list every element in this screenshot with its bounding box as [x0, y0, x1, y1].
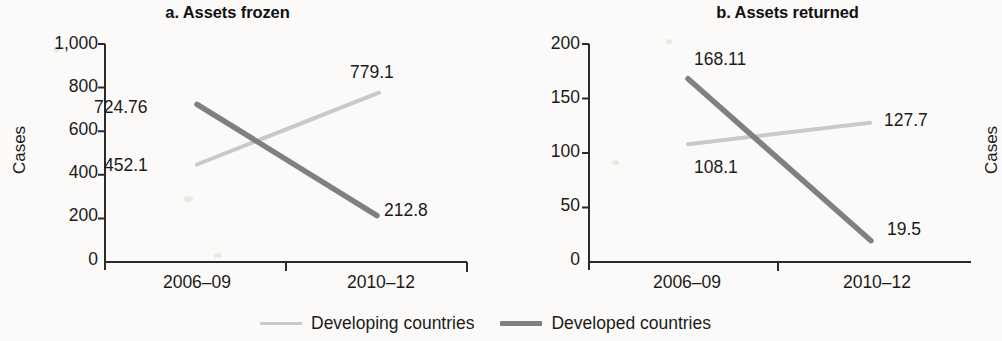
- panel-b-assets-returned: b. Assets returned Cases 200 150 100 50 …: [480, 0, 971, 300]
- panel-a-series-developed-countries: [197, 104, 377, 215]
- legend-entry-developing-countries[interactable]: Developing countries: [260, 313, 474, 334]
- panel-b-value-developing-end: 127.7: [884, 110, 928, 131]
- panel-b-ytick-150: 150: [502, 87, 580, 108]
- panel-b-xtick-2010-12: 2010–12: [812, 272, 942, 293]
- panel-a-ytick-400: 400: [10, 162, 98, 183]
- panel-b-value-developed-end: 19.5: [887, 219, 921, 240]
- panel-b-series-developing-countries: [688, 123, 870, 144]
- panel-b-value-developed-start: 168.11: [694, 49, 746, 70]
- panel-a-series-developing-countries: [197, 93, 379, 165]
- panel-a-ytick-200: 200: [10, 205, 98, 226]
- panel-a-y-ticks: [98, 44, 105, 218]
- panel-a-ytick-800: 800: [10, 76, 98, 97]
- panel-a-title: a. Assets frozen: [0, 3, 455, 22]
- panel-b-ytick-50: 50: [502, 195, 580, 216]
- panel-b-value-developing-start: 108.1: [694, 157, 738, 178]
- panel-b-ytick-0: 0: [502, 249, 580, 270]
- panel-a-ytick-1000: 1,000: [10, 33, 98, 54]
- legend-swatch-developing-countries-icon: [260, 322, 302, 325]
- panel-b-y-ticks: [582, 44, 589, 208]
- panel-a-xtick-2010-12: 2010–12: [316, 272, 446, 293]
- panel-a-ytick-600: 600: [10, 119, 98, 140]
- panel-a-value-developing-start: 452.1: [104, 155, 148, 176]
- panel-a-ytick-0: 0: [10, 249, 98, 270]
- legend-label-developed-countries: Developed countries: [551, 313, 711, 334]
- chart-legend: Developing countries Developed countries: [0, 305, 971, 341]
- panel-b-y-axis-title: Cases: [982, 110, 1002, 190]
- panel-a-plot-area: [96, 30, 480, 275]
- panel-b-xtick-2006-09: 2006–09: [622, 272, 752, 293]
- panel-a-value-developed-start: 724.76: [94, 97, 148, 118]
- panel-b-ytick-100: 100: [502, 141, 580, 162]
- panel-a-xtick-2006-09: 2006–09: [132, 272, 262, 293]
- legend-entry-developed-countries[interactable]: Developed countries: [500, 313, 711, 334]
- panel-b-title: b. Assets returned: [560, 3, 1002, 22]
- panel-a-assets-frozen: a. Assets frozen Cases 1,000 800 600 400…: [0, 0, 480, 300]
- panel-a-value-developing-end: 779.1: [350, 62, 394, 83]
- legend-label-developing-countries: Developing countries: [311, 313, 474, 334]
- panel-b-ytick-200: 200: [502, 33, 580, 54]
- panel-a-value-developed-end: 212.8: [384, 200, 428, 221]
- legend-swatch-developed-countries-icon: [500, 321, 542, 326]
